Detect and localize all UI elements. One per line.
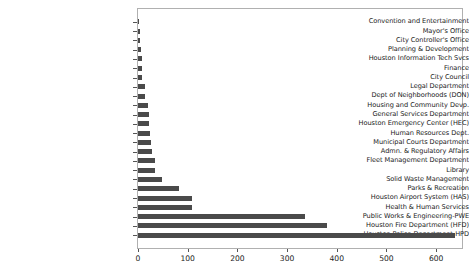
x-tick-label: 600 <box>429 254 444 263</box>
x-tick-mark <box>188 249 189 252</box>
x-tick-label: 300 <box>280 254 295 263</box>
x-tick-label: 200 <box>230 254 245 263</box>
x-tick-label: 500 <box>379 254 394 263</box>
bar-chart-figure: Convention and EntertainmentMayor's Offi… <box>0 0 469 278</box>
x-tick-mark <box>237 249 238 252</box>
x-tick-mark <box>287 249 288 252</box>
x-tick-label: 0 <box>136 254 141 263</box>
x-tick-mark <box>386 249 387 252</box>
x-tick-label: 400 <box>330 254 345 263</box>
x-axis: 0100200300400500600 <box>0 0 469 278</box>
x-tick-label: 100 <box>180 254 195 263</box>
x-tick-mark <box>337 249 338 252</box>
x-tick-mark <box>436 249 437 252</box>
x-tick-mark <box>138 249 139 252</box>
